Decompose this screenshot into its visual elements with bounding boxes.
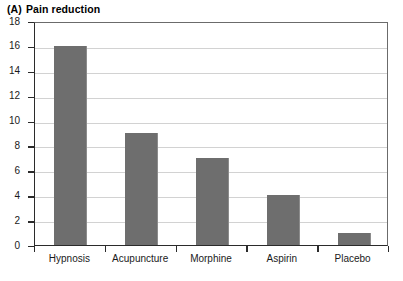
- gridline: [35, 98, 387, 99]
- plot-area: [34, 22, 388, 246]
- chart-title-text: Pain reduction: [26, 3, 100, 15]
- x-axis-tick: [34, 246, 35, 252]
- y-axis-tick-label: 12: [9, 91, 20, 101]
- x-axis-category-label: Placebo: [317, 254, 388, 264]
- bar: [267, 195, 300, 245]
- bar: [54, 46, 87, 245]
- y-axis-tick-label: 10: [9, 116, 20, 126]
- gridline: [35, 73, 387, 74]
- gridline: [35, 48, 387, 49]
- bar-chart-figure: (A)Pain reduction 024681012141618 Hypnos…: [0, 0, 403, 281]
- x-axis-category-label: Aspirin: [246, 254, 317, 264]
- x-axis-tick: [246, 246, 247, 252]
- x-axis-tick: [105, 246, 106, 252]
- y-axis-tick-label: 4: [14, 191, 20, 201]
- y-axis-tick: [28, 47, 34, 48]
- y-axis-tick: [28, 97, 34, 98]
- bar: [125, 133, 158, 245]
- chart-title: (A)Pain reduction: [7, 3, 100, 15]
- y-axis-tick: [28, 146, 34, 147]
- x-axis-tick: [317, 246, 318, 252]
- panel-tag-label: (A): [7, 3, 22, 15]
- x-axis-category-label: Acupuncture: [105, 254, 176, 264]
- y-axis-tick: [28, 196, 34, 197]
- y-axis-tick: [28, 72, 34, 73]
- x-axis-tick: [176, 246, 177, 252]
- bar: [338, 233, 371, 245]
- y-axis-tick: [28, 221, 34, 222]
- gridline: [35, 123, 387, 124]
- gridline: [35, 147, 387, 148]
- y-axis-tick-label: 2: [14, 216, 20, 226]
- bar: [196, 158, 229, 245]
- y-axis-tick: [28, 122, 34, 123]
- y-axis-tick-label: 0: [14, 241, 20, 251]
- y-axis-tick: [28, 22, 34, 23]
- y-axis-tick-label: 8: [14, 141, 20, 151]
- y-axis-tick-label: 16: [9, 41, 20, 51]
- y-axis-tick-label: 14: [9, 66, 20, 76]
- x-axis-category-label: Hypnosis: [34, 254, 105, 264]
- y-axis-tick-label: 6: [14, 166, 20, 176]
- x-axis-category-label: Morphine: [176, 254, 247, 264]
- x-axis-tick: [388, 246, 389, 252]
- y-axis-tick: [28, 171, 34, 172]
- y-axis-tick-label: 18: [9, 17, 20, 27]
